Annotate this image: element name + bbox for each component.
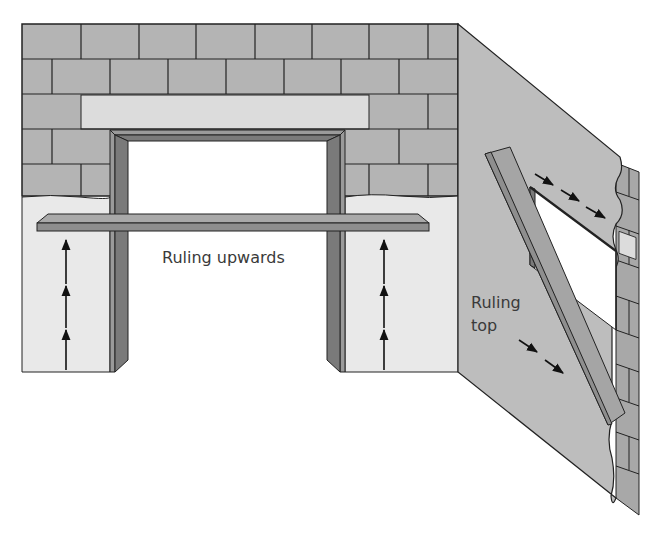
ruling-upwards-label: Ruling upwards — [162, 248, 285, 267]
plastering-diagram: Ruling upwards — [0, 0, 655, 534]
lintel — [81, 95, 369, 129]
horizontal-ruler — [37, 214, 429, 231]
ruling-top-label-line2: top — [471, 316, 497, 335]
ruling-top-label-line1: Ruling — [471, 293, 521, 312]
